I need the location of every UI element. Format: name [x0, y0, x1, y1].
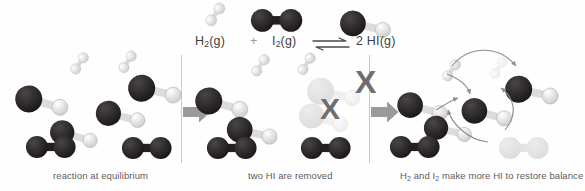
- legend-molecule-i2: [250, 8, 303, 33]
- cap3-and-i: and I: [411, 170, 435, 181]
- cap3-tail: make more HI to restore balance: [439, 170, 583, 181]
- equation-product-hi: 2 HI(g): [356, 34, 396, 48]
- equilibrium-arrow-icon: [311, 37, 351, 51]
- molecule-i2: [498, 136, 550, 160]
- eq-hi-symbol: HI: [367, 34, 380, 48]
- molecule-h2: [437, 57, 466, 84]
- eq-h-state: (g): [209, 34, 225, 48]
- equilibrium-diagram: H2(g) + I2(g) 2 HI(g) XX reaction at equ…: [0, 0, 585, 191]
- caption-panel-removed: two HI are removed: [248, 170, 333, 181]
- removed-x-icon: X: [355, 66, 376, 98]
- molecule-hi: [12, 82, 78, 120]
- molecule-h2: [246, 52, 275, 79]
- caption-panel-equilibrium: reaction at equilibrium: [53, 170, 148, 181]
- molecule-i2: [121, 136, 173, 160]
- molecule-h2: [65, 50, 94, 77]
- molecule-hi: [125, 72, 189, 107]
- eq-i-state: (g): [281, 34, 297, 48]
- molecule-i2: [25, 135, 77, 159]
- panel-divider: [181, 55, 182, 163]
- removed-x-icon: X: [320, 94, 340, 124]
- eq-h-symbol: H: [195, 34, 204, 48]
- legend-molecule-h2: [200, 0, 231, 28]
- equation-reactant-h2: H2(g): [195, 34, 225, 49]
- equation-reactant-i2: I2(g): [272, 34, 296, 49]
- caption-panel-restore: H2 and I2 make more HI to restore balanc…: [400, 170, 583, 182]
- molecule-i2: [206, 136, 258, 160]
- molecule-i2: [389, 135, 441, 159]
- eq-product-coefficient: 2: [356, 34, 367, 48]
- equation-plus-sign: +: [250, 34, 258, 48]
- molecule-h2: [292, 50, 322, 77]
- cap3-h: H: [400, 170, 407, 181]
- eq-plus-glyph: +: [250, 34, 258, 48]
- eq-hi-state: (g): [380, 34, 396, 48]
- molecule-i2: [300, 136, 352, 160]
